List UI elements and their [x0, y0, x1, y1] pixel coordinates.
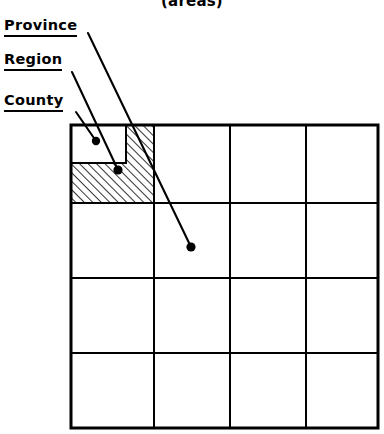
label-county-text: County — [4, 93, 63, 112]
figure-root: (areas) — [0, 0, 384, 434]
label-region-text: Region — [4, 52, 62, 71]
label-province: Province — [4, 18, 77, 37]
dot-county — [92, 137, 100, 145]
dot-province — [186, 242, 195, 251]
label-province-text: Province — [4, 18, 77, 37]
label-county: County — [4, 93, 63, 112]
dot-region — [113, 165, 122, 174]
label-region: Region — [4, 52, 62, 71]
